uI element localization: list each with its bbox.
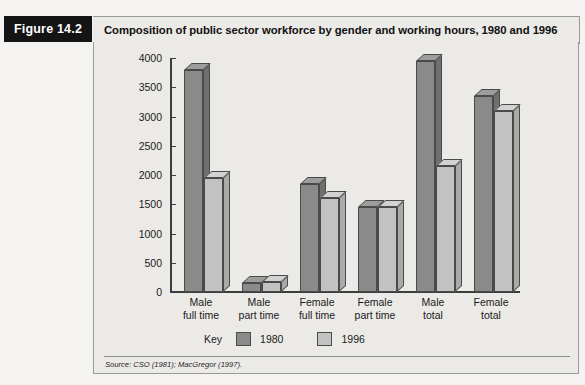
x-axis-label-male-total: Maletotal xyxy=(404,296,462,321)
x-axis-label-line: Male xyxy=(172,296,230,309)
bar-side-face xyxy=(513,104,520,292)
bar-male-part-time-1996 xyxy=(262,282,281,292)
chart-panel: 05001000150020002500300035004000 Maleful… xyxy=(93,42,579,374)
x-axis-label-line: part time xyxy=(230,309,288,322)
figure-number-tag: Figure 14.2 xyxy=(4,16,92,42)
y-axis-tick-label: 2500 xyxy=(94,140,162,152)
bar-front-face xyxy=(494,111,513,292)
x-axis-label-line: Male xyxy=(404,296,462,309)
bars-container xyxy=(172,58,520,292)
y-axis-tick-label: 1500 xyxy=(94,198,162,210)
bar-front-face xyxy=(184,70,203,292)
bar-front-face xyxy=(474,96,493,292)
y-axis-tick-label: 1000 xyxy=(94,228,162,240)
x-axis-label-female-part-time: Femalepart time xyxy=(346,296,404,321)
bar-male-total-1980 xyxy=(416,61,435,292)
bar-female-full-time-1980 xyxy=(300,184,319,292)
bar-front-face xyxy=(320,198,339,292)
chart-legend: Key 1980 1996 xyxy=(204,332,399,346)
legend-key-label: Key xyxy=(204,333,222,345)
y-axis-tick-label: 3500 xyxy=(94,81,162,93)
source-divider xyxy=(104,356,570,357)
bar-front-face xyxy=(436,166,455,292)
bar-male-part-time-1980 xyxy=(242,283,261,292)
x-axis-label-male-full-time: Malefull time xyxy=(172,296,230,321)
y-axis-tick-label: 500 xyxy=(94,257,162,269)
x-axis-label-line: part time xyxy=(346,309,404,322)
bar-front-face xyxy=(416,61,435,292)
legend-swatch-1980 xyxy=(236,332,251,346)
figure-root: Figure 14.2 Composition of public sector… xyxy=(0,0,585,385)
x-axis-label-line: Male xyxy=(230,296,288,309)
bar-female-total-1996 xyxy=(494,111,513,292)
bar-female-full-time-1996 xyxy=(320,198,339,292)
x-axis-label-female-total: Femaletotal xyxy=(462,296,520,321)
legend-label-1996: 1996 xyxy=(341,333,364,345)
y-axis-tick-label: 4000 xyxy=(94,52,162,64)
y-axis-label-wrap: 500 xyxy=(94,263,166,275)
bar-female-part-time-1980 xyxy=(358,207,377,292)
figure-number-label: Figure 14.2 xyxy=(14,22,82,36)
y-axis-label-wrap: 1500 xyxy=(94,204,166,216)
y-axis-tick-label: 2000 xyxy=(94,169,162,181)
y-axis-tick-label: 0 xyxy=(94,286,162,298)
y-axis-label-wrap: 0 xyxy=(94,292,166,304)
bar-front-face xyxy=(378,207,397,292)
y-axis-label-wrap: 4000 xyxy=(94,58,166,70)
bar-front-face xyxy=(300,184,319,292)
bar-side-face xyxy=(455,160,462,292)
figure-title: Composition of public sector workforce b… xyxy=(93,24,558,36)
y-axis-label-wrap: 3500 xyxy=(94,87,166,99)
y-axis-label-wrap: 2500 xyxy=(94,146,166,158)
x-axis-label-male-part-time: Malepart time xyxy=(230,296,288,321)
x-axis-label-line: full time xyxy=(288,309,346,322)
x-axis-label-female-full-time: Femalefull time xyxy=(288,296,346,321)
bar-front-face xyxy=(262,282,281,292)
bar-side-face xyxy=(397,201,404,292)
bar-front-face xyxy=(358,207,377,292)
x-axis-label-line: total xyxy=(462,309,520,322)
x-axis-label-line: Female xyxy=(288,296,346,309)
x-axis-label-line: Female xyxy=(346,296,404,309)
bar-front-face xyxy=(242,283,261,292)
bar-side-face xyxy=(339,192,346,292)
legend-label-1980: 1980 xyxy=(260,333,283,345)
bar-female-total-1980 xyxy=(474,96,493,292)
bar-chart: 05001000150020002500300035004000 Maleful… xyxy=(94,42,580,374)
source-note: Source: CSO (1981); MacGregor (1997). xyxy=(105,360,242,369)
y-axis-label-wrap: 3000 xyxy=(94,117,166,129)
bar-male-total-1996 xyxy=(436,166,455,292)
x-axis-label-line: total xyxy=(404,309,462,322)
bar-side-face xyxy=(223,172,230,292)
figure-title-bar: Composition of public sector workforce b… xyxy=(93,16,580,44)
x-axis-label-line: full time xyxy=(172,309,230,322)
y-axis-tick xyxy=(170,292,176,293)
bar-front-face xyxy=(204,178,223,292)
bar-female-part-time-1996 xyxy=(378,207,397,292)
bar-male-full-time-1980 xyxy=(184,70,203,292)
y-axis-label-wrap: 1000 xyxy=(94,234,166,246)
legend-swatch-1996 xyxy=(317,332,332,346)
bar-male-full-time-1996 xyxy=(204,178,223,292)
y-axis-label-wrap: 2000 xyxy=(94,175,166,187)
x-axis-label-line: Female xyxy=(462,296,520,309)
y-axis-tick-label: 3000 xyxy=(94,111,162,123)
